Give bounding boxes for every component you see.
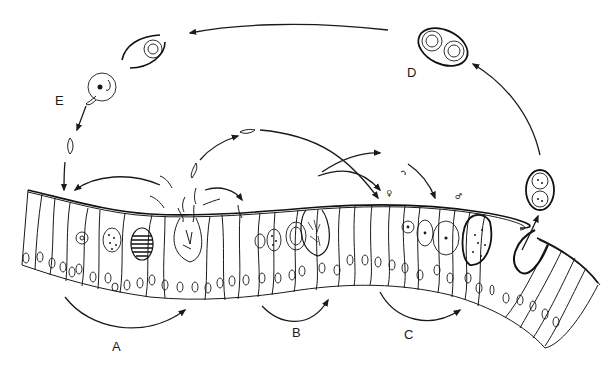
arrow-to-male xyxy=(408,164,435,198)
meront-releasing-merozoites xyxy=(174,205,202,262)
arrow-cycle-c xyxy=(380,292,460,320)
male-symbol: ♂ xyxy=(455,193,462,201)
gamonts xyxy=(402,215,491,265)
trophozoite-stage xyxy=(76,232,88,244)
arrow-merozoite-to-gen2 xyxy=(260,130,378,198)
arrow-sporozoite-to-epithelium xyxy=(64,162,65,190)
second-generation-meronts xyxy=(255,210,329,256)
arrow-exit-oocyst xyxy=(522,216,538,250)
arrow-cycle-b xyxy=(262,300,328,321)
life-cycle-diagram: A B C D E ♀ ♂ xyxy=(0,0,614,369)
arrow-gen2-up xyxy=(322,153,380,172)
stage-label-d: D xyxy=(407,66,416,79)
arrow-merozoite-up xyxy=(200,136,238,160)
arrow-merozoite-reinvade xyxy=(75,177,160,190)
arrow-merozoite-right xyxy=(205,188,242,200)
arrow-cycle-a xyxy=(65,297,185,328)
immature-meront xyxy=(103,228,121,252)
female-symbol: ♀ xyxy=(386,190,392,198)
arrow-oocyst-to-d xyxy=(473,64,540,155)
stage-label-a: A xyxy=(112,340,121,353)
stage-label-c: C xyxy=(404,328,413,341)
sporocyst-releasing-sporozoite xyxy=(86,73,116,105)
cycle-arrows xyxy=(64,24,540,327)
sporulated-oocyst xyxy=(412,21,473,74)
diagram-canvas xyxy=(0,0,614,369)
stage-label-b: B xyxy=(292,326,301,339)
oocyst-exiting xyxy=(514,230,548,273)
unsporulated-oocyst xyxy=(526,170,554,210)
excysting-oocyst xyxy=(122,35,165,68)
epithelium-band xyxy=(22,190,600,348)
arrow-e-to-sporozoite xyxy=(77,106,86,130)
mature-meront xyxy=(131,228,153,260)
arrow-d-to-e xyxy=(190,24,388,33)
stage-label-e: E xyxy=(55,94,64,107)
arrow-gen2-to-female xyxy=(318,171,380,190)
